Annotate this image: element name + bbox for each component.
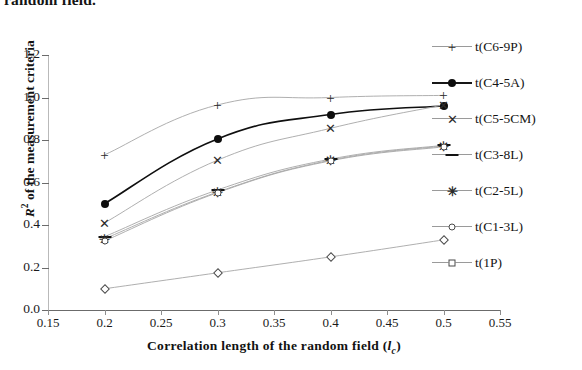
chart-legend: +t(C6-9P)t(C4-5A)✕t(C5-5CM)t(C3-8L)✳t(C2… [432, 36, 582, 286]
x-axis-label: Correlation length of the random field (… [48, 338, 500, 356]
legend-swatch: ✳ [432, 180, 472, 202]
legend-swatch: + [432, 36, 472, 58]
legend-swatch [432, 72, 472, 94]
legend-label: t(C6-9P) [472, 39, 522, 55]
legend-line-segment [432, 46, 472, 47]
chart-figure: 0.00.20.40.60.81.01.2 0.150.20.250.30.35… [0, 0, 582, 370]
legend-swatch [432, 144, 472, 166]
x-tick-label: 0.4 [305, 315, 357, 331]
series-line [105, 106, 444, 204]
legend-item[interactable]: t(C3-8L) [432, 144, 523, 166]
legend-item[interactable]: t(1P) [432, 252, 502, 274]
legend-label: t(C1-3L) [472, 219, 523, 235]
y-tick-label: 0.2 [0, 259, 40, 275]
x-tick-label: 0.5 [418, 315, 470, 331]
legend-line-segment [432, 226, 472, 227]
series-line [105, 240, 444, 289]
legend-line-segment [432, 262, 472, 263]
legend-label: t(C4-5A) [472, 75, 525, 91]
legend-label: t(1P) [472, 255, 502, 271]
legend-line-segment [432, 118, 472, 119]
plus-marker: + [448, 40, 456, 55]
legend-swatch [432, 216, 472, 238]
legend-swatch: ✕ [432, 108, 472, 130]
x-tick-label: 0.15 [22, 315, 74, 331]
x-tick-label: 0.45 [361, 315, 413, 331]
star-marker: ✳ [447, 185, 458, 198]
x-tick-label: 0.35 [248, 315, 300, 331]
x-tick-label: 0.55 [474, 315, 526, 331]
legend-item[interactable]: t(C1-3L) [432, 216, 523, 238]
legend-line-segment [432, 154, 472, 155]
legend-label: t(C2-5L) [472, 183, 523, 199]
cross-marker: ✕ [447, 113, 458, 126]
diamond-marker [449, 260, 456, 267]
series-line [105, 95, 444, 154]
legend-label: t(C5-5CM) [472, 111, 536, 127]
series-line [105, 147, 444, 241]
x-tick-label: 0.2 [79, 315, 131, 331]
legend-line-segment [432, 82, 472, 84]
legend-swatch [432, 252, 472, 274]
legend-item[interactable]: ✳t(C2-5L) [432, 180, 523, 202]
x-tick-label: 0.3 [192, 315, 244, 331]
x-tick-label: 0.25 [135, 315, 187, 331]
legend-item[interactable]: t(C4-5A) [432, 72, 525, 94]
legend-line-segment [432, 190, 472, 191]
series-line [105, 145, 444, 236]
legend-item[interactable]: ✕t(C5-5CM) [432, 108, 536, 130]
circle-marker [449, 224, 456, 231]
y-axis-label: R2 of the measurement criteria [20, 4, 38, 254]
legend-item[interactable]: +t(C6-9P) [432, 36, 522, 58]
legend-label: t(C3-8L) [472, 147, 523, 163]
